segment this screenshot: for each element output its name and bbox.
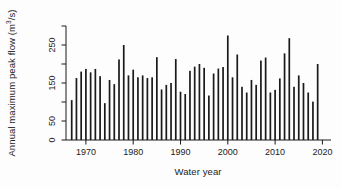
bar-1982 — [142, 75, 144, 140]
bar-1989 — [175, 59, 177, 140]
bar-1983 — [147, 78, 149, 140]
bar-2015 — [298, 75, 300, 140]
bar-2001 — [232, 77, 234, 140]
x-tick-label: 2020 — [312, 147, 332, 157]
bar-1973 — [99, 76, 101, 140]
bar-1984 — [151, 77, 153, 140]
bar-2009 — [270, 93, 272, 141]
bar-1979 — [128, 75, 130, 140]
x-tick-label: 1970 — [76, 147, 96, 157]
y-axis-title-text: Annual maximum peak flow (m — [6, 24, 17, 157]
bar-1992 — [189, 71, 191, 140]
bar-2002 — [236, 55, 238, 141]
bar-2010 — [274, 90, 276, 140]
bar-1977 — [118, 59, 120, 140]
bar-2016 — [303, 83, 305, 140]
y-tick-label: 150 — [47, 75, 57, 90]
bar-2007 — [260, 61, 262, 140]
bar-1974 — [104, 103, 106, 140]
bar-1980 — [132, 70, 134, 140]
bar-2005 — [251, 80, 253, 140]
bar-1991 — [184, 94, 186, 140]
bar-1970 — [85, 69, 87, 140]
bar-1987 — [165, 85, 167, 140]
bar-2003 — [241, 87, 243, 140]
bar-2004 — [246, 93, 248, 141]
bar-2017 — [307, 93, 309, 141]
x-tick-label: 2000 — [218, 147, 238, 157]
y-tick-label: 250 — [47, 37, 57, 52]
bar-1986 — [161, 89, 163, 140]
bar-1971 — [90, 72, 92, 140]
bar-2006 — [255, 85, 257, 140]
bar-1994 — [199, 64, 201, 140]
bar-2011 — [279, 78, 281, 140]
y-axis-title-sup: 3 — [5, 20, 12, 24]
bar-2018 — [312, 102, 314, 140]
bar-1969 — [80, 72, 82, 140]
bar-1975 — [109, 80, 111, 140]
bar-2014 — [293, 87, 295, 140]
bar-1997 — [213, 74, 215, 141]
y-tick-label: 0 — [47, 137, 57, 142]
bar-1988 — [170, 83, 172, 140]
bar-2000 — [227, 36, 229, 141]
x-tick-label: 1990 — [170, 147, 190, 157]
bar-1967 — [71, 100, 73, 140]
bar-2019 — [317, 64, 319, 140]
bar-1993 — [194, 67, 196, 140]
bar-2013 — [288, 38, 290, 140]
bar-1978 — [123, 45, 125, 140]
bar-1968 — [76, 78, 78, 140]
bar-1990 — [180, 92, 182, 140]
y-tick-label: 50 — [47, 116, 57, 126]
bar-1999 — [222, 67, 224, 140]
bar-1998 — [217, 69, 219, 140]
bar-1981 — [137, 77, 139, 140]
y-axis-title-units: /s) — [6, 9, 17, 20]
bar-2012 — [284, 53, 286, 140]
y-axis-title: Annual maximum peak flow (m3/s) — [5, 9, 17, 156]
x-tick-label: 2010 — [265, 147, 285, 157]
peak-flow-chart: 050150250197019801990200020102020 Water … — [0, 0, 341, 189]
chart-canvas: 050150250197019801990200020102020 — [0, 0, 341, 189]
x-axis-title: Water year — [174, 166, 221, 177]
bar-1972 — [95, 69, 97, 140]
bar-1995 — [203, 68, 205, 140]
bar-1985 — [156, 57, 158, 140]
x-tick-label: 1980 — [123, 147, 143, 157]
bar-2008 — [265, 58, 267, 140]
bar-1996 — [208, 96, 210, 140]
bar-1976 — [113, 84, 115, 140]
